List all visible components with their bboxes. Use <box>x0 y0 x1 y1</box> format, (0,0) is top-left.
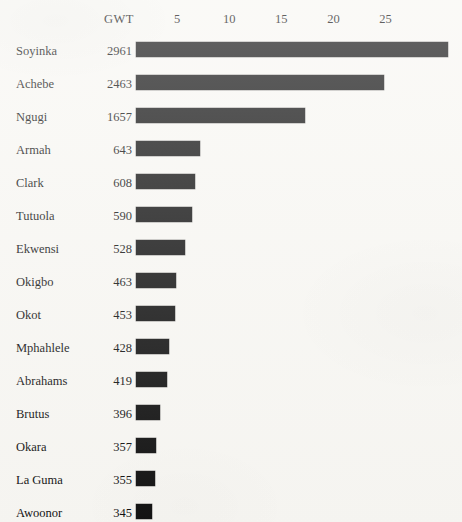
bar <box>136 42 448 57</box>
bar-track <box>136 405 460 420</box>
gwt-value: 608 <box>66 176 132 191</box>
bar-row: Abrahams419 <box>0 368 462 401</box>
x-tick-label-20: 20 <box>327 12 340 27</box>
bar-track <box>136 339 460 354</box>
gwt-column-header: GWT <box>104 12 134 27</box>
bar-row: Brutus396 <box>0 401 462 434</box>
category-label: Mphahlele <box>16 341 69 356</box>
bar <box>136 372 167 387</box>
category-label: Soyinka <box>16 44 57 59</box>
bar <box>136 471 155 486</box>
bar <box>136 108 305 123</box>
bar-track <box>136 174 460 189</box>
category-label: Ekwensi <box>16 242 59 257</box>
category-label: Awoonor <box>16 506 62 521</box>
bar-row: Okigbo463 <box>0 269 462 302</box>
category-label: Ngugi <box>16 110 47 125</box>
category-label: La Guma <box>16 473 63 488</box>
x-tick-label-10: 10 <box>223 12 236 27</box>
bar-track <box>136 75 460 90</box>
bar-track <box>136 471 460 486</box>
category-label: Okara <box>16 440 47 455</box>
category-label: Armah <box>16 143 51 158</box>
bar-track <box>136 504 460 519</box>
category-label: Tutuola <box>16 209 54 224</box>
gwt-value: 1657 <box>66 110 132 125</box>
gwt-value: 643 <box>66 143 132 158</box>
bar-track <box>136 273 460 288</box>
bar-row: Ngugi1657 <box>0 104 462 137</box>
bar <box>136 504 152 519</box>
x-tick-label-15: 15 <box>275 12 288 27</box>
horizontal-bar-chart: GWT 510152025 Soyinka2961Achebe2463Ngugi… <box>0 0 462 522</box>
gwt-value: 396 <box>66 407 132 422</box>
bar-row: Okara357 <box>0 434 462 467</box>
bar-row: La Guma355 <box>0 467 462 500</box>
bar <box>136 273 176 288</box>
bar-row: Awoonor345 <box>0 500 462 522</box>
bar <box>136 174 195 189</box>
gwt-value: 355 <box>66 473 132 488</box>
gwt-value: 590 <box>66 209 132 224</box>
bar <box>136 75 384 90</box>
bar-row: Achebe2463 <box>0 71 462 104</box>
bar <box>136 339 169 354</box>
bar-row: Tutuola590 <box>0 203 462 236</box>
gwt-value: 345 <box>66 506 132 521</box>
bar-track <box>136 372 460 387</box>
gwt-value: 528 <box>66 242 132 257</box>
gwt-value: 357 <box>66 440 132 455</box>
category-label: Okigbo <box>16 275 54 290</box>
gwt-value: 453 <box>66 308 132 323</box>
bar-row: Soyinka2961 <box>0 38 462 71</box>
bar-row: Clark608 <box>0 170 462 203</box>
gwt-value: 2463 <box>66 77 132 92</box>
x-tick-label-25: 25 <box>379 12 392 27</box>
bar <box>136 240 185 255</box>
category-label: Abrahams <box>16 374 67 389</box>
bar <box>136 141 200 156</box>
bar-track <box>136 141 460 156</box>
bar-rows-container: Soyinka2961Achebe2463Ngugi1657Armah643Cl… <box>0 38 462 522</box>
bar-track <box>136 108 460 123</box>
bar-track <box>136 438 460 453</box>
bar <box>136 405 160 420</box>
category-label: Okot <box>16 308 41 323</box>
category-label: Brutus <box>16 407 49 422</box>
category-label: Achebe <box>16 77 54 92</box>
bar <box>136 207 192 222</box>
category-label: Clark <box>16 176 44 191</box>
gwt-value: 428 <box>66 341 132 356</box>
bar <box>136 306 175 321</box>
gwt-value: 2961 <box>66 44 132 59</box>
chart-axis-header: GWT 510152025 <box>0 12 462 32</box>
bar <box>136 438 156 453</box>
gwt-value: 419 <box>66 374 132 389</box>
bar-track <box>136 207 460 222</box>
bar-track <box>136 42 460 57</box>
bar-row: Ekwensi528 <box>0 236 462 269</box>
bar-track <box>136 240 460 255</box>
bar-row: Okot453 <box>0 302 462 335</box>
bar-row: Mphahlele428 <box>0 335 462 368</box>
bar-row: Armah643 <box>0 137 462 170</box>
bar-track <box>136 306 460 321</box>
gwt-value: 463 <box>66 275 132 290</box>
x-tick-label-5: 5 <box>174 12 180 27</box>
